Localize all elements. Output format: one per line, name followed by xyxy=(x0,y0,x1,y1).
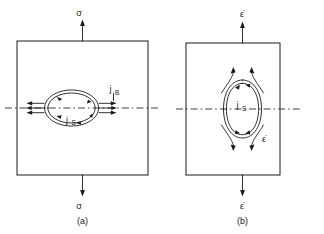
panel-a-stress-arrow-bottom xyxy=(80,175,85,197)
panel-b-strain-label-bottom: ε̇ xyxy=(240,201,245,211)
panel-b-strain-label-inner: ε̇ xyxy=(262,134,267,144)
panel-b-strain-label-top: ε̇ xyxy=(240,9,245,19)
panel-a-stress-arrow-top xyxy=(80,20,85,42)
svg-text:B: B xyxy=(115,89,119,96)
figure-root: σ σ j B j S (a) xyxy=(0,0,324,234)
panel-b-js-label: j S xyxy=(236,100,248,112)
svg-text:S: S xyxy=(72,119,77,126)
panel-a-stress-label-top: σ xyxy=(76,8,82,18)
panel-a-js-label: j S xyxy=(65,115,77,127)
diagram-canvas: σ σ j B j S (a) xyxy=(0,0,324,234)
panel-a-caption: (a) xyxy=(77,216,88,226)
panel-b-strain-arrow-top xyxy=(240,22,245,44)
svg-text:j: j xyxy=(109,84,112,94)
panel-b-caption: (b) xyxy=(237,216,248,226)
panel-a: σ σ j B j S (a) xyxy=(5,8,160,226)
svg-text:j: j xyxy=(65,115,68,125)
panel-a-boundary-flux-right xyxy=(99,101,117,115)
panel-a-stress-label-bottom: σ xyxy=(76,201,82,211)
panel-b: ε̇ ε̇ ε̇ j S (b) xyxy=(176,9,300,226)
svg-text:j: j xyxy=(236,100,239,110)
svg-text:S: S xyxy=(242,105,247,112)
panel-a-boundary-flux-left xyxy=(26,101,44,115)
panel-b-strain-arrow-bottom xyxy=(240,175,245,197)
